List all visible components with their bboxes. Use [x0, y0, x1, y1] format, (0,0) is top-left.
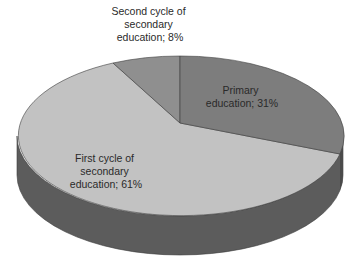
label-first-cycle: First cycle of secondary education; 61%	[70, 152, 142, 190]
pie-chart-svg: Second cycle of secondary education; 8% …	[0, 0, 359, 270]
pie-chart: Second cycle of secondary education; 8% …	[0, 0, 359, 270]
label-second-cycle: Second cycle of secondary education; 8%	[111, 5, 188, 43]
